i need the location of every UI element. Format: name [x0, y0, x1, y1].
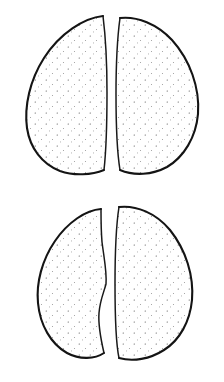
- figure-background: [0, 0, 224, 382]
- seed-illustration-svg: [0, 0, 224, 382]
- botanical-figure: Split seed cotyledon pairs: [0, 0, 224, 382]
